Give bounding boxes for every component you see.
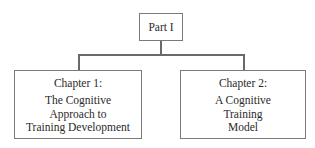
chapter-1-line-1: The Cognitive [15, 94, 141, 108]
connector-root-stem [160, 41, 162, 55]
chapter-1-description: The Cognitive Approach to Training Devel… [15, 94, 141, 135]
chapter-1-node: Chapter 1: The Cognitive Approach to Tra… [14, 70, 142, 139]
connector-right-drop [243, 54, 245, 70]
connector-horizontal-bar [78, 54, 244, 56]
chapter-1-title: Chapter 1: [15, 76, 141, 90]
chapter-2-line-1: A Cognitive [181, 94, 305, 108]
chapter-2-line-2: Training [181, 108, 305, 122]
connector-left-drop [78, 54, 80, 70]
chapter-2-title: Chapter 2: [181, 76, 305, 90]
part-label: Part I [148, 21, 173, 33]
chapter-2-description: A Cognitive Training Model [181, 94, 305, 135]
chapter-2-line-3: Model [181, 121, 305, 135]
part-node: Part I [139, 13, 183, 41]
chapter-1-line-3: Training Development [15, 121, 141, 135]
chapter-1-line-2: Approach to [15, 108, 141, 122]
chapter-2-node: Chapter 2: A Cognitive Training Model [180, 70, 306, 139]
